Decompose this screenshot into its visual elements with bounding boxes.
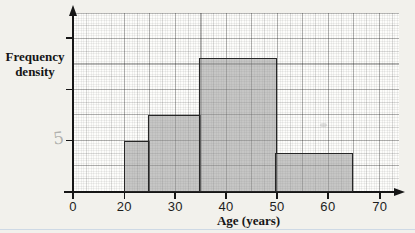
y-axis-title: Frequency density (2, 49, 68, 79)
x-axis-title: Age (years) (186, 213, 311, 229)
y-axis-arrow-up-icon (69, 5, 77, 16)
pencil-annotation: 5 (52, 127, 65, 148)
x-axis-arrow-right-icon (394, 188, 405, 196)
x-axis-tick-label: 40 (211, 199, 241, 214)
x-axis-tick-label: 60 (313, 199, 343, 214)
page-bottom-rule (0, 229, 415, 230)
histogram-bar (124, 141, 149, 192)
y-axis-tick (66, 140, 73, 142)
histogram-bar (199, 58, 277, 192)
x-axis-tick-label: 70 (365, 199, 395, 214)
x-axis-tick-label: 30 (160, 199, 190, 214)
x-axis-tick-label: 50 (262, 199, 292, 214)
histogram-figure: Frequency density 0203040506070 5 Age (y… (0, 0, 415, 233)
smudge-artifact (320, 123, 327, 127)
x-axis-tick-label: 20 (109, 199, 139, 214)
y-axis-tick (66, 89, 73, 91)
histogram-bar (148, 115, 201, 192)
histogram-bar (275, 153, 353, 192)
y-axis-tick (66, 37, 73, 39)
x-axis-tick-label: 0 (58, 199, 88, 214)
y-axis-line (72, 12, 74, 196)
